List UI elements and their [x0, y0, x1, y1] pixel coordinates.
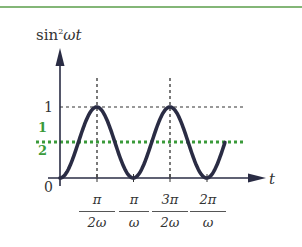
- frac-num: π: [93, 193, 102, 206]
- fraction-bar: [79, 211, 115, 212]
- origin-label: 0: [44, 180, 53, 194]
- ylabel-base: sin: [36, 26, 58, 44]
- fraction-bar: [152, 211, 188, 212]
- frac-den: ω: [203, 216, 214, 229]
- fraction-bar: [119, 211, 149, 212]
- x-axis-label: t: [269, 172, 275, 187]
- x-tick-label-2pi-over-w: 2π ω: [190, 193, 226, 229]
- ylabel-rest: ωt: [63, 26, 81, 44]
- chart-figure: sin2ωt 1 1 2 0 t π 2ω π ω 3π 2ω 2π ω: [0, 0, 302, 247]
- y-axis-label: sin2ωt: [36, 28, 82, 43]
- x-tick-label-3pi-over-2w: 3π 2ω: [152, 193, 188, 229]
- y-axis-arrow-icon: [56, 48, 65, 66]
- x-axis-arrow-icon: [248, 174, 266, 183]
- frac-num: 2π: [200, 193, 217, 206]
- half-num: 1: [38, 121, 47, 134]
- frac-den: 2ω: [161, 216, 180, 229]
- fraction-bar: [190, 211, 226, 212]
- frac-den: 2ω: [88, 216, 107, 229]
- x-tick-label-pi-over-w: π ω: [119, 193, 149, 229]
- y-tick-label-1: 1: [44, 100, 53, 114]
- frac-num: 3π: [162, 193, 179, 206]
- frac-num: π: [130, 193, 139, 206]
- x-tick-label-pi-over-2w: π 2ω: [79, 193, 115, 229]
- y-tick-label-half: 1 2: [38, 121, 47, 157]
- frac-den: ω: [129, 216, 140, 229]
- half-den: 2: [38, 144, 47, 157]
